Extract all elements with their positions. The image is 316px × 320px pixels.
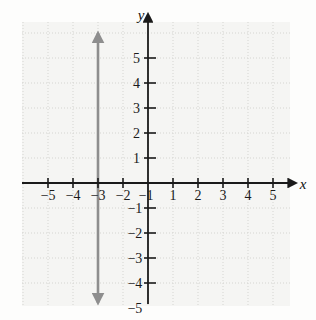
y-tick-label--2: −2 [128,226,143,241]
y-tick-label-2: 2 [133,126,140,141]
graph-canvas: −5 −4 −3 −2 −1 1 2 3 4 5 5 4 3 2 1 −1 −2… [0,0,316,320]
x-tick-label--3: −3 [91,188,106,203]
y-tick-label-1: 1 [133,151,140,166]
x-tick-label--5: −5 [41,188,56,203]
y-tick-label-3: 3 [133,101,140,116]
x-tick-label-1: 1 [170,188,177,203]
x-tick-label-3: 3 [220,188,227,203]
x-tick-label-2: 2 [195,188,202,203]
x-tick-label-4: 4 [245,188,252,203]
coordinate-plane-figure: −5 −4 −3 −2 −1 1 2 3 4 5 5 4 3 2 1 −1 −2… [0,0,316,320]
y-tick-label-5: 5 [133,51,140,66]
x-tick-label--4: −4 [66,188,81,203]
plot-background [22,22,290,306]
y-tick-label--5: −5 [128,301,143,316]
y-tick-label--4: −4 [128,276,143,291]
x-axis-label: x [299,176,307,192]
y-tick-label--1: −1 [128,201,143,216]
y-tick-label--3: −3 [128,251,143,266]
x-tick-label-5: 5 [270,188,277,203]
y-axis-label: y [136,7,145,23]
y-tick-label-4: 4 [133,76,140,91]
